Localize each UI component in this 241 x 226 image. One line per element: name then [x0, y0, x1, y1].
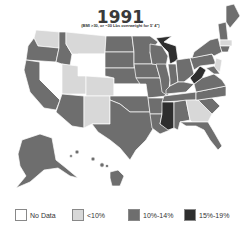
state-new-mexico: [84, 96, 110, 128]
state-colorado: [86, 76, 114, 96]
legend-swatch-15-19: [184, 209, 196, 221]
state-south-dakota: [105, 52, 134, 68]
state-arkansas: [148, 98, 164, 114]
state-massachusetts: [220, 40, 232, 46]
legend-label: 15%-19%: [199, 212, 229, 219]
state-maine: [226, 4, 240, 28]
state-alaska: [16, 134, 78, 188]
state-kansas: [114, 84, 146, 96]
state-mississippi: [160, 102, 174, 130]
legend-item-no-data: No Data: [15, 209, 56, 221]
state-connecticut-ri: [220, 46, 230, 52]
state-vermont-nh: [218, 22, 228, 40]
legend-swatch-10-14: [128, 209, 140, 221]
state-florida: [180, 122, 222, 150]
legend-item-10-14: 10%-14%: [128, 209, 173, 221]
state-hawaii: [70, 150, 125, 186]
state-new-york: [192, 38, 222, 58]
legend-label: 10%-14%: [143, 212, 173, 219]
legend-swatch-lt10: [72, 209, 84, 221]
state-wyoming: [78, 54, 105, 76]
legend-swatch-no-data: [15, 209, 27, 221]
state-iowa: [134, 64, 160, 78]
legend: No Data <10% 10%-14% 15%-19%: [0, 209, 241, 223]
state-montana: [66, 32, 106, 54]
state-north-dakota: [105, 36, 134, 52]
state-arizona: [56, 94, 84, 128]
us-obesity-map: [0, 0, 241, 226]
legend-item-lt10: <10%: [72, 209, 105, 221]
legend-label: <10%: [87, 212, 105, 219]
legend-item-15-19: 15%-19%: [184, 209, 229, 221]
legend-label: No Data: [30, 212, 56, 219]
